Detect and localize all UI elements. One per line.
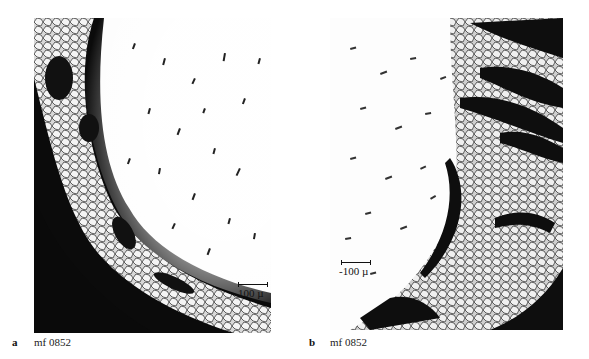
scale-bar-b-label: -100 µ <box>339 265 368 277</box>
scale-bar-a-label: 100 µ <box>238 287 264 299</box>
panel-caption-b: mf 0852 <box>330 336 367 348</box>
panel-caption-a: mf 0852 <box>34 336 71 348</box>
panel-letter-a: a <box>12 336 18 348</box>
micrograph-a: 100 µ <box>34 18 271 333</box>
micrograph-b: -100 µ <box>330 18 563 330</box>
micrograph-a-image <box>34 18 271 333</box>
micrograph-b-image <box>330 18 563 330</box>
panel-letter-b: b <box>309 336 315 348</box>
